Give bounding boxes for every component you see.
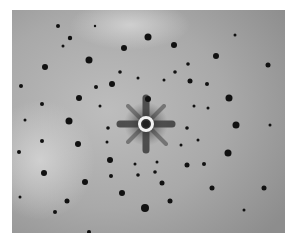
- diffraction-spot: [56, 24, 60, 28]
- diffraction-spot: [118, 70, 122, 74]
- diffraction-spot: [66, 118, 73, 125]
- diffraction-spot: [99, 105, 102, 108]
- diffraction-spot: [210, 186, 215, 191]
- diffraction-spot: [171, 42, 177, 48]
- diffraction-spot: [68, 36, 72, 40]
- diffraction-spot: [262, 186, 267, 191]
- diffraction-spot: [193, 105, 196, 108]
- diffraction-spot: [160, 181, 165, 186]
- diffraction-spot: [121, 45, 127, 51]
- diffraction-spot: [109, 174, 113, 178]
- diffraction-spot: [225, 150, 232, 157]
- diffraction-spot: [197, 139, 200, 142]
- diffraction-spot: [134, 163, 137, 166]
- diffraction-spot: [269, 124, 272, 127]
- diffraction-spot: [40, 102, 44, 106]
- diffraction-spot: [145, 96, 151, 102]
- diffraction-spot: [234, 34, 237, 37]
- diffraction-spot: [107, 157, 113, 163]
- diffraction-spot: [153, 170, 157, 174]
- diffraction-spot: [53, 210, 57, 214]
- diffraction-spot: [207, 107, 210, 110]
- diffraction-spot: [213, 53, 219, 59]
- diffraction-spot: [106, 126, 110, 130]
- diffraction-spot: [17, 150, 21, 154]
- diffraction-spot: [180, 144, 183, 147]
- diffraction-spot: [185, 126, 189, 130]
- diffraction-spot: [24, 119, 27, 122]
- diffraction-spot: [42, 64, 48, 70]
- diffraction-spot: [137, 77, 140, 80]
- diffraction-spot: [226, 95, 233, 102]
- diffraction-spot: [82, 179, 88, 185]
- diffraction-spot: [86, 57, 93, 64]
- diffraction-spot: [106, 141, 109, 144]
- diffraction-spot: [266, 63, 271, 68]
- diffraction-spot: [202, 162, 206, 166]
- diffraction-spot: [62, 45, 65, 48]
- diffraction-spot: [185, 163, 190, 168]
- diffraction-photograph: [12, 10, 285, 233]
- diffraction-pattern: [12, 10, 285, 233]
- diffraction-spot: [243, 209, 246, 212]
- diffraction-spot: [136, 173, 140, 177]
- diffraction-spot: [19, 84, 23, 88]
- diffraction-spot: [76, 95, 82, 101]
- diffraction-spot: [40, 139, 44, 143]
- diffraction-spot: [163, 79, 166, 82]
- diffraction-spot: [109, 81, 115, 87]
- diffraction-spot: [205, 82, 209, 86]
- diffraction-spot: [156, 161, 159, 164]
- diffraction-spot: [186, 62, 190, 66]
- diffraction-spot: [94, 85, 98, 89]
- diffraction-spot: [75, 141, 81, 147]
- diffraction-spot: [188, 79, 193, 84]
- diffraction-spot: [119, 190, 125, 196]
- diffraction-spot: [173, 70, 177, 74]
- center-beam-stop: [143, 121, 150, 128]
- diffraction-spot: [94, 25, 96, 27]
- diffraction-spot: [141, 204, 149, 212]
- diffraction-spot: [233, 122, 240, 129]
- diffraction-spot: [65, 199, 70, 204]
- diffraction-spot: [41, 170, 47, 176]
- diffraction-spot: [19, 196, 22, 199]
- diffraction-spot: [168, 199, 173, 204]
- diffraction-spot: [145, 34, 152, 41]
